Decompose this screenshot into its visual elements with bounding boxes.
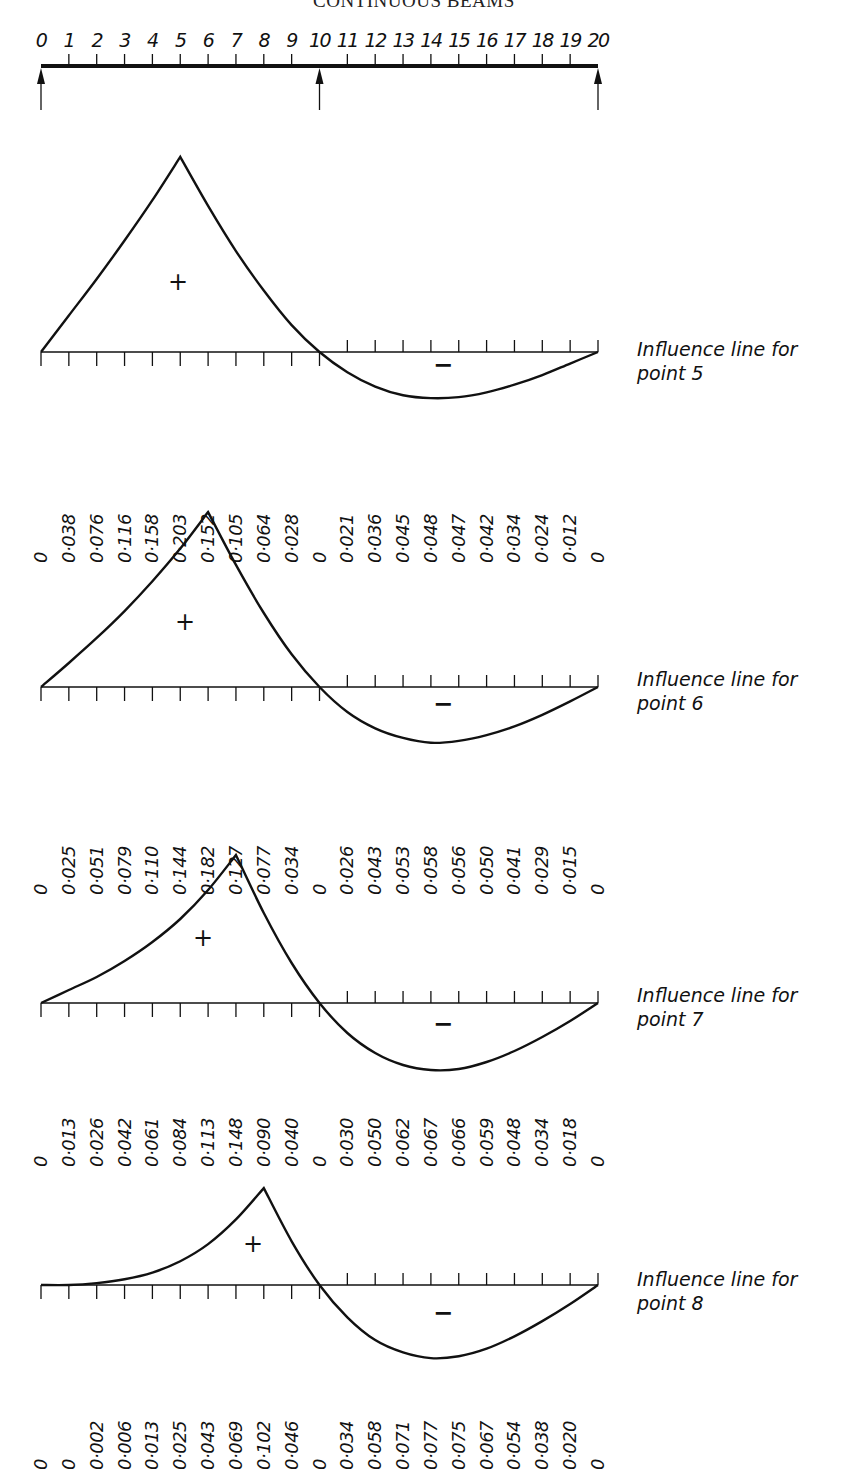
ordinate-value: 0·067 — [476, 1420, 497, 1470]
ordinate-value: 0·064 — [253, 514, 274, 563]
ordinate-value: 0·075 — [448, 1421, 469, 1470]
ordinate-value: 0·061 — [141, 1118, 162, 1167]
beam-point-label: 12 — [365, 29, 387, 51]
influence-line-label-point-6: Influence line for point 6 — [637, 667, 797, 715]
ordinate-value: 0·034 — [336, 1421, 357, 1470]
beam-point-label: 11 — [337, 29, 358, 51]
influence-line-label-point-5: Influence line for point 5 — [637, 337, 797, 385]
ordinate-value: 0·050 — [364, 1118, 385, 1167]
label-line1: Influence line for — [637, 983, 797, 1007]
label-line2: point 6 — [637, 691, 797, 715]
ordinate-value: 0·062 — [392, 1118, 413, 1167]
ordinate-value: 0 — [30, 1156, 51, 1167]
ordinate-value: 0·105 — [225, 514, 246, 563]
ordinate-value: 0·076 — [86, 514, 107, 563]
beam-point-label: 0 — [36, 29, 48, 51]
beam-point-label: 14 — [420, 29, 442, 51]
beam-point-label: 2 — [91, 29, 102, 51]
ordinate-value: 0·018 — [559, 1118, 580, 1167]
ordinate-value: 0·024 — [531, 514, 552, 563]
beam-point-label: 15 — [448, 29, 471, 51]
ordinate-value: 0·034 — [281, 846, 302, 895]
beam-point-label: 13 — [392, 29, 414, 51]
support-arrow-icon — [594, 68, 602, 84]
beam-point-label: 16 — [476, 29, 499, 51]
ordinate-value: 0·144 — [169, 846, 190, 895]
ordinate-value: 0·043 — [364, 846, 385, 895]
ordinate-value: 0·034 — [503, 514, 524, 563]
ordinate-value: 0·013 — [58, 1118, 79, 1167]
ordinate-value: 0·066 — [448, 1118, 469, 1167]
support-arrow-icon — [316, 68, 324, 84]
ordinate-value: 0·026 — [86, 1118, 107, 1167]
ordinate-value: 0·051 — [86, 846, 107, 895]
positive-region-sign: + — [168, 268, 188, 296]
influence-line-label-point-7: Influence line for point 7 — [637, 983, 797, 1031]
ordinate-value: 0·102 — [253, 1421, 274, 1470]
beam-point-label: 1 — [64, 29, 75, 51]
ordinate-value: 0·116 — [114, 514, 135, 563]
ordinate-value: 0·043 — [197, 1421, 218, 1470]
ordinate-value: 0 — [587, 552, 608, 563]
beam-point-label: 6 — [203, 29, 215, 51]
influence-line-point-5: +−00·0380·0760·1160·1580·2030·1520·1050·… — [30, 157, 608, 563]
beam-point-label: 20 — [587, 29, 610, 51]
ordinate-value: 0·077 — [420, 1420, 441, 1470]
ordinate-value: 0·041 — [503, 846, 524, 895]
influence-line-point-6: +−00·0250·0510·0790·1100·1440·1820·1270·… — [30, 512, 608, 895]
ordinate-value: 0 — [309, 1156, 330, 1167]
negative-region-sign: − — [433, 1299, 453, 1327]
ordinate-value: 0·067 — [420, 1117, 441, 1167]
ordinate-value: 0·110 — [141, 846, 162, 895]
positive-region-sign: + — [193, 924, 213, 952]
beam-point-label: 17 — [504, 29, 527, 51]
ordinate-value: 0·042 — [476, 514, 497, 563]
ordinate-value: 0·047 — [448, 513, 469, 563]
ordinate-value: 0 — [587, 1459, 608, 1470]
label-line1: Influence line for — [637, 337, 797, 361]
beam-diagram: 01234567891011121314151617181920 — [36, 29, 610, 110]
ordinate-value: 0·006 — [114, 1421, 135, 1470]
ordinate-value: 0·020 — [559, 1421, 580, 1470]
beam-point-label: 4 — [147, 29, 158, 51]
ordinate-value: 0 — [30, 1459, 51, 1470]
ordinate-value: 0·038 — [531, 1421, 552, 1470]
beam-point-label: 18 — [532, 29, 555, 51]
ordinate-value: 0·053 — [392, 846, 413, 895]
ordinate-value: 0·026 — [336, 846, 357, 895]
ordinate-value: 0·045 — [392, 514, 413, 563]
beam-point-label: 19 — [560, 29, 582, 51]
negative-region-sign: − — [433, 1010, 453, 1038]
label-line2: point 5 — [637, 361, 797, 385]
ordinate-value: 0 — [309, 884, 330, 895]
positive-region-sign: + — [243, 1230, 263, 1258]
ordinate-value: 0·042 — [114, 1118, 135, 1167]
ordinate-value: 0·056 — [448, 846, 469, 895]
ordinate-value: 0 — [587, 1156, 608, 1167]
ordinate-value: 0·054 — [503, 1421, 524, 1470]
ordinate-value: 0·048 — [503, 1118, 524, 1167]
ordinate-value: 0·058 — [420, 846, 441, 895]
ordinate-value: 0·048 — [420, 514, 441, 563]
ordinate-value: 0·182 — [197, 846, 218, 895]
beam-point-label: 9 — [286, 29, 297, 51]
negative-region-sign: − — [433, 351, 453, 379]
ordinate-value: 0·050 — [476, 846, 497, 895]
ordinate-value: 0·148 — [225, 1118, 246, 1167]
ordinate-value: 0 — [30, 884, 51, 895]
ordinate-value: 0·079 — [114, 846, 135, 895]
influence-line-point-8: +−000·0020·0060·0130·0250·0430·0690·1020… — [30, 1188, 608, 1470]
label-line1: Influence line for — [637, 1267, 797, 1291]
positive-region-sign: + — [175, 608, 195, 636]
beam-point-label: 5 — [175, 29, 187, 51]
ordinate-value: 0 — [309, 1459, 330, 1470]
ordinate-value: 0·025 — [58, 846, 79, 895]
ordinate-value: 0·038 — [58, 514, 79, 563]
ordinate-value: 0·002 — [86, 1421, 107, 1470]
ordinate-value: 0·013 — [141, 1421, 162, 1470]
negative-region-sign: − — [433, 690, 453, 718]
influence-line-point-7: +−00·0130·0260·0420·0610·0840·1130·1480·… — [30, 855, 608, 1167]
ordinate-value: 0 — [587, 884, 608, 895]
ordinate-value: 0 — [309, 552, 330, 563]
ordinate-value: 0·021 — [336, 514, 357, 563]
